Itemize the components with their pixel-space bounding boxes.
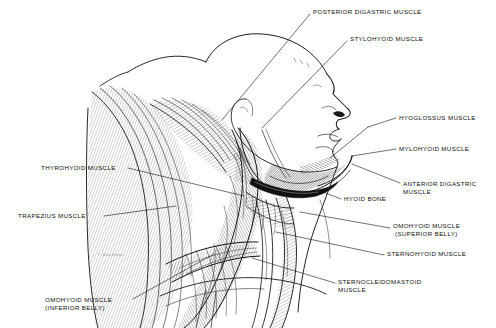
scalp-contour bbox=[100, 56, 206, 86]
label-posterior-digastric-muscle: POSTERIOR DIGASTRIC MUSCLE bbox=[313, 8, 421, 16]
leader-posterior-digastric bbox=[222, 14, 310, 120]
label-mylohyoid-muscle: MYLOHYOID MUSCLE bbox=[399, 145, 469, 153]
label-omohyoid-muscle-inferior-belly: OMOHYOID MUSCLE (INFERIOR BELLY) bbox=[45, 296, 112, 312]
leader-mylohyoid bbox=[352, 149, 396, 156]
ear-mastoid-region bbox=[231, 99, 253, 132]
label-hyoglossus-muscle: HYOGLOSSUS MUSCLE bbox=[399, 114, 476, 122]
label-omohyoid-muscle-superior-belly: OMOHYOID MUSCLE (SUPERIOR BELLY) bbox=[393, 222, 460, 238]
label-anterior-digastric-muscle: ANTERIOR DIGASTRIC MUSCLE bbox=[403, 180, 477, 196]
leader-stylohyoid bbox=[262, 41, 347, 128]
label-stylohyoid-muscle: STYLOHYOID MUSCLE bbox=[350, 35, 423, 43]
label-hyoid-bone: HYOID BONE bbox=[344, 195, 386, 203]
label-sternocleidomastoid-muscle: STERNOCLEIDOMASTOID MUSCLE bbox=[338, 278, 422, 294]
leader-hyoid-bone bbox=[318, 190, 341, 199]
leader-anterior-digastric bbox=[352, 164, 400, 183]
label-sternohyoid-muscle: STERNOHYOID MUSCLE bbox=[387, 250, 466, 258]
label-thyrohyoid-muscle: THYROHYOID MUSCLE bbox=[41, 164, 116, 172]
leader-hyoglossus-2 bbox=[330, 127, 368, 158]
label-trapezius-muscle: TRAPEZIUS MUSCLE bbox=[18, 212, 86, 220]
illustrator-signature: T. Blackman bbox=[97, 252, 123, 257]
leader-hyoglossus bbox=[368, 118, 396, 127]
anatomy-figure: POSTERIOR DIGASTRIC MUSCLE STYLOHYOID MU… bbox=[0, 0, 496, 328]
leader-omohyoid-superior bbox=[300, 212, 390, 228]
